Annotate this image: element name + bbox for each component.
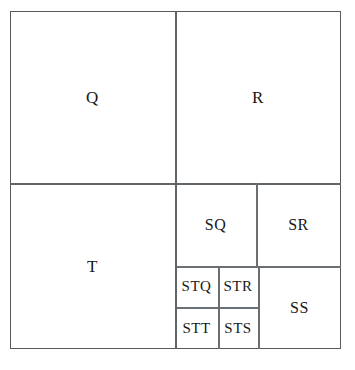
region-sq-label: SQ xyxy=(205,217,226,233)
region-stq-label: STQ xyxy=(182,279,212,294)
region-stt-label: STT xyxy=(182,321,210,336)
region-q: Q xyxy=(10,11,175,183)
region-t-label: T xyxy=(87,258,98,275)
region-ss: SS xyxy=(258,266,341,349)
region-sr-label: SR xyxy=(288,217,309,233)
region-sr: SR xyxy=(256,183,341,266)
region-stt: STT xyxy=(175,307,218,349)
region-sts-label: STS xyxy=(224,321,251,336)
region-r-label: R xyxy=(252,89,264,106)
region-r: R xyxy=(175,11,341,183)
partition-diagram: Q R T SQ SR SS STQ STR STT STS xyxy=(0,0,355,370)
region-stq: STQ xyxy=(175,266,218,307)
region-str: STR xyxy=(218,266,258,307)
region-sts: STS xyxy=(218,307,258,349)
region-sq: SQ xyxy=(175,183,256,266)
region-str-label: STR xyxy=(223,279,252,294)
region-t: T xyxy=(10,183,175,349)
region-q-label: Q xyxy=(86,89,99,106)
region-ss-label: SS xyxy=(290,300,309,316)
